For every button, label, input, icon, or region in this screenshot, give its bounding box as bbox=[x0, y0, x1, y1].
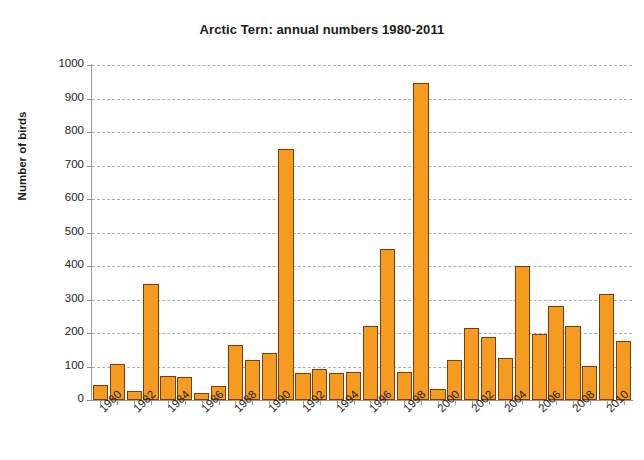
chart-figure: Arctic Tern: annual numbers 1980-2011 Nu… bbox=[0, 0, 644, 460]
bar-2006 bbox=[532, 334, 547, 400]
y-tick-label: 500 bbox=[36, 225, 84, 237]
y-tick-label: 800 bbox=[36, 124, 84, 136]
bar-1991 bbox=[278, 149, 293, 400]
bar-1997 bbox=[380, 249, 395, 400]
y-axis-title: Number of birds bbox=[16, 81, 28, 231]
bar-2002 bbox=[464, 328, 479, 400]
bar-1983 bbox=[143, 284, 158, 400]
y-tick-label: 700 bbox=[36, 158, 84, 170]
bar-1994 bbox=[329, 373, 344, 400]
y-tick-label: 300 bbox=[36, 292, 84, 304]
y-tick-label: 0 bbox=[36, 392, 84, 404]
bar-2005 bbox=[515, 266, 530, 400]
y-tick-mark bbox=[87, 400, 92, 401]
chart-title: Arctic Tern: annual numbers 1980-2011 bbox=[0, 22, 644, 37]
y-tick-label: 200 bbox=[36, 325, 84, 337]
y-tick-label: 1000 bbox=[36, 57, 84, 69]
bar-2007 bbox=[548, 306, 563, 400]
y-tick-label: 900 bbox=[36, 91, 84, 103]
bar-1996 bbox=[363, 326, 378, 400]
bar-2008 bbox=[565, 326, 580, 400]
bar-series bbox=[92, 65, 632, 400]
bar-1988 bbox=[228, 345, 243, 400]
y-tick-label: 400 bbox=[36, 258, 84, 270]
bar-1990 bbox=[262, 353, 277, 400]
bar-1999 bbox=[413, 83, 428, 400]
plot-area: 01002003004005006007008009001000 bbox=[92, 65, 632, 400]
bar-2004 bbox=[498, 358, 513, 400]
y-tick-label: 100 bbox=[36, 359, 84, 371]
bar-2010 bbox=[599, 294, 614, 400]
y-tick-label: 600 bbox=[36, 191, 84, 203]
